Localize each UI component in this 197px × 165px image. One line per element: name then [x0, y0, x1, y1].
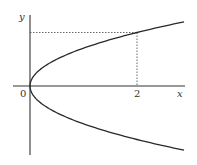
y-axis-label: y [18, 11, 25, 22]
x-tick-label-2: 2 [134, 88, 140, 99]
x-axis-label: x [177, 88, 183, 99]
origin-label: 0 [20, 88, 26, 99]
diagram-canvas: y x 0 2 [0, 0, 197, 165]
parabola-upper-branch [30, 22, 184, 86]
parabola-lower-branch [30, 86, 184, 150]
